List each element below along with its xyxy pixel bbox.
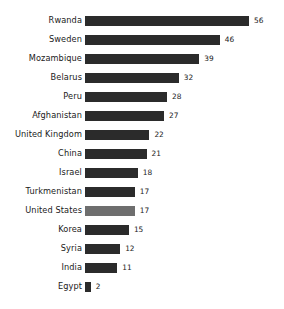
bar-highlighted	[85, 206, 135, 216]
bar	[85, 187, 135, 197]
bar	[85, 111, 164, 121]
value-label: 12	[125, 245, 134, 252]
bar	[85, 92, 167, 102]
category-label: United Kingdom	[0, 130, 82, 138]
bar-track: 17	[82, 187, 284, 197]
bar-row: Egypt2	[0, 277, 284, 296]
value-label: 11	[122, 264, 131, 271]
bar-track: 12	[82, 244, 284, 254]
bar-track: 46	[82, 35, 284, 45]
bar-row: Mozambique39	[0, 49, 284, 68]
category-label: Turkmenistan	[0, 187, 82, 195]
category-label: Syria	[0, 244, 82, 252]
bar	[85, 35, 220, 45]
bar	[85, 130, 149, 140]
bar-row: Belarus32	[0, 68, 284, 87]
value-label: 28	[172, 93, 181, 100]
bar	[85, 263, 117, 273]
category-label: Korea	[0, 225, 82, 233]
bar-row: Korea15	[0, 220, 284, 239]
bar-row: United Kingdom22	[0, 125, 284, 144]
value-label: 32	[184, 74, 193, 81]
value-label: 18	[143, 169, 152, 176]
category-label: Peru	[0, 92, 82, 100]
bar-row: Israel18	[0, 163, 284, 182]
bar-track: 28	[82, 92, 284, 102]
category-label: Mozambique	[0, 54, 82, 62]
bar-row: China21	[0, 144, 284, 163]
bar-track: 11	[82, 263, 284, 273]
value-label: 22	[154, 131, 163, 138]
bar	[85, 225, 129, 235]
bar-track: 56	[82, 16, 284, 26]
value-label: 15	[134, 226, 143, 233]
bar-track: 17	[82, 206, 284, 216]
value-label: 46	[225, 36, 234, 43]
category-label: United States	[0, 206, 82, 214]
bar	[85, 282, 91, 292]
bar-track: 39	[82, 54, 284, 64]
category-label: Egypt	[0, 282, 82, 290]
bar-row: Turkmenistan17	[0, 182, 284, 201]
category-label: Israel	[0, 168, 82, 176]
value-label: 17	[140, 188, 149, 195]
value-label: 2	[96, 283, 101, 290]
category-label: Afghanistan	[0, 111, 82, 119]
bar	[85, 54, 199, 64]
bar-row: United States17	[0, 201, 284, 220]
horizontal-bar-chart: Rwanda56Sweden46Mozambique39Belarus32Per…	[0, 0, 284, 309]
bar-row: Afghanistan27	[0, 106, 284, 125]
category-label: Belarus	[0, 73, 82, 81]
bar	[85, 168, 138, 178]
bar-track: 21	[82, 149, 284, 159]
value-label: 21	[152, 150, 161, 157]
value-label: 56	[254, 17, 263, 24]
bar-row: India11	[0, 258, 284, 277]
category-label: China	[0, 149, 82, 157]
bar-track: 27	[82, 111, 284, 121]
bar-row: Sweden46	[0, 30, 284, 49]
bar	[85, 16, 249, 26]
bar-row: Peru28	[0, 87, 284, 106]
category-label: India	[0, 263, 82, 271]
bar	[85, 149, 147, 159]
bar-row: Rwanda56	[0, 11, 284, 30]
value-label: 17	[140, 207, 149, 214]
bar-track: 15	[82, 225, 284, 235]
value-label: 27	[169, 112, 178, 119]
category-label: Sweden	[0, 35, 82, 43]
bar-track: 22	[82, 130, 284, 140]
bar-track: 32	[82, 73, 284, 83]
bar	[85, 73, 179, 83]
bar-track: 18	[82, 168, 284, 178]
bar-row: Syria12	[0, 239, 284, 258]
value-label: 39	[204, 55, 213, 62]
bar	[85, 244, 120, 254]
category-label: Rwanda	[0, 16, 82, 24]
bar-track: 2	[82, 282, 284, 292]
